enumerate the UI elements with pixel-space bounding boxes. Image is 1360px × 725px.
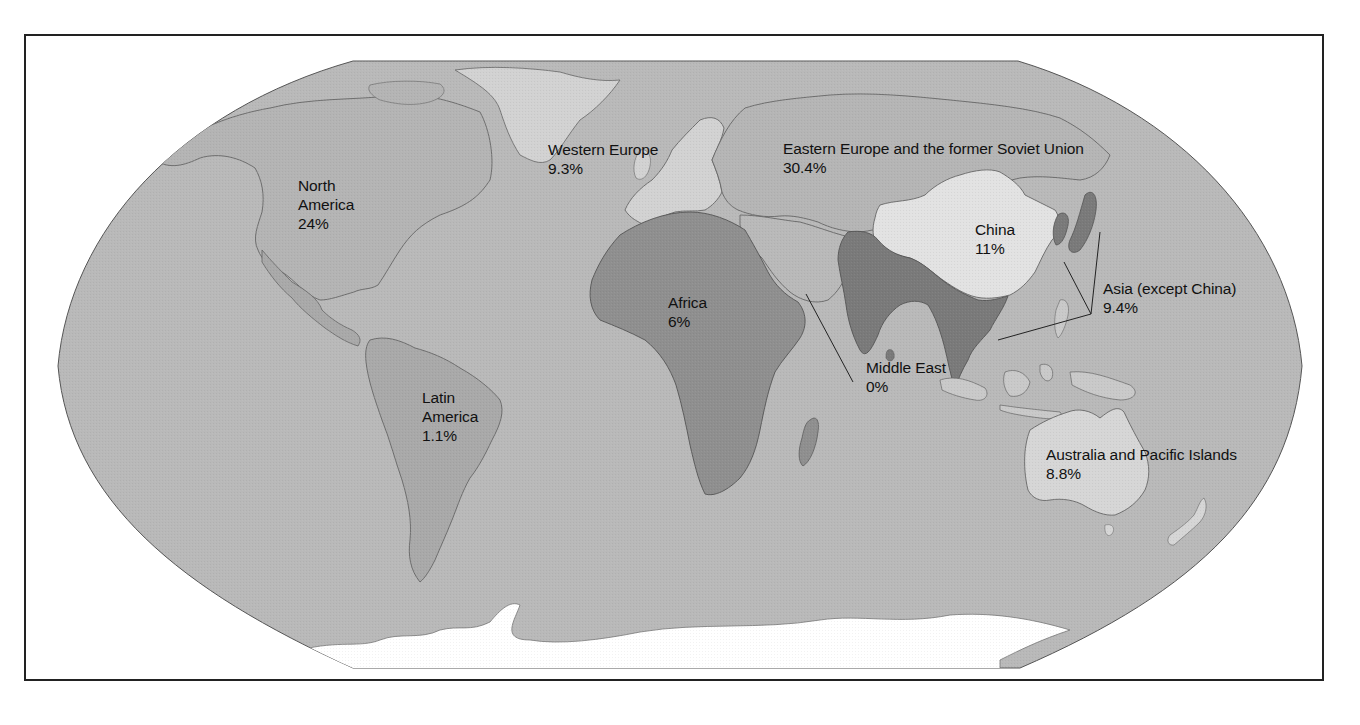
label-middle-east: Middle East 0%	[866, 358, 946, 396]
label-asia-except-china: Asia (except China) 9.4%	[1103, 279, 1236, 317]
region-value: 6%	[668, 312, 707, 331]
region-name: Africa	[668, 293, 707, 312]
region-name: America	[422, 407, 478, 426]
region-name: Latin	[422, 388, 478, 407]
region-value: 1.1%	[422, 426, 478, 445]
region-value: 9.4%	[1103, 298, 1236, 317]
region-value: 30.4%	[783, 158, 1084, 177]
region-name: Australia and Pacific Islands	[1046, 445, 1237, 464]
region-name: America	[298, 195, 354, 214]
region-value: 8.8%	[1046, 464, 1237, 483]
region-value: 0%	[866, 377, 946, 396]
region-value: 9.3%	[548, 159, 658, 178]
region-name: Western Europe	[548, 140, 658, 159]
region-value: 24%	[298, 214, 354, 233]
region-value: 11%	[975, 239, 1015, 258]
region-name: China	[975, 220, 1015, 239]
region-name: Asia (except China)	[1103, 279, 1236, 298]
region-name: Eastern Europe and the former Soviet Uni…	[783, 139, 1084, 158]
region-name: Middle East	[866, 358, 946, 377]
world-map	[0, 0, 1360, 725]
label-australia-pacific: Australia and Pacific Islands 8.8%	[1046, 445, 1237, 483]
label-latin-america: Latin America 1.1%	[422, 388, 478, 445]
label-eastern-europe-soviet-union: Eastern Europe and the former Soviet Uni…	[783, 139, 1084, 177]
label-north-america: North America 24%	[298, 176, 354, 233]
label-china: China 11%	[975, 220, 1015, 258]
label-africa: Africa 6%	[668, 293, 707, 331]
label-western-europe: Western Europe 9.3%	[548, 140, 658, 178]
region-name: North	[298, 176, 354, 195]
